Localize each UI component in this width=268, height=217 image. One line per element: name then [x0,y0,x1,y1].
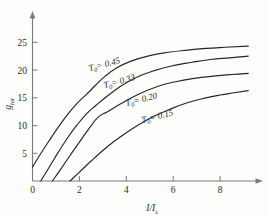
x-tick-label-6: 6 [171,185,176,195]
x-axis-title-denominator-sub: s [155,208,158,215]
svg-text:gtot: gtot [3,98,15,110]
x-tick-label-2: 2 [77,185,82,195]
svg-text:T0= 0.20: T0= 0.20 [124,90,159,109]
curve-t0-045 [33,46,249,167]
curve-label-t0-020: T0= 0.20 [124,90,159,109]
svg-text:T0= 0.45: T0= 0.45 [87,55,122,75]
y-tick-label-20: 20 [18,66,28,76]
y-axis-title: gtot [3,98,15,110]
curve-label-015-value: = 0.15 [148,107,174,123]
curve-label-t0-045: T0= 0.45 [87,55,122,75]
y-tick-label-15: 15 [18,93,28,103]
y-tick-labels-group: 25 20 15 10 5 [18,38,28,159]
x-tick-labels-group: 0 2 4 6 8 [30,185,223,195]
curves-group [33,46,249,181]
curve-label-045-value: = 0.45 [95,55,121,71]
svg-text:T0= 0.15: T0= 0.15 [140,107,175,126]
x-axis-title: I/Is [145,203,158,215]
curve-label-033-value: = 0.33 [110,72,136,88]
y-tick-label-10: 10 [18,121,28,131]
chart-figure: 25 20 15 10 5 0 2 4 6 8 gtot I/Is [0,0,268,217]
curve-label-020-value: = 0.20 [132,90,158,106]
y-tick-label-25: 25 [18,38,28,48]
y-ticks-group [33,42,38,153]
x-tick-label-4: 4 [124,185,129,195]
plot-canvas: 25 20 15 10 5 0 2 4 6 8 gtot I/Is [0,0,268,217]
y-axis-arrow-icon [30,11,36,19]
x-tick-label-0: 0 [30,185,35,195]
x-axis-arrow-icon [256,178,264,184]
svg-text:I/Is: I/Is [145,203,158,215]
x-ticks-group [79,176,220,181]
y-axis-title-sub: tot [8,98,15,105]
curve-t0-020 [52,73,248,181]
curve-label-t0-015: T0= 0.15 [140,107,175,126]
y-tick-label-5: 5 [22,149,27,159]
x-tick-label-8: 8 [218,185,223,195]
